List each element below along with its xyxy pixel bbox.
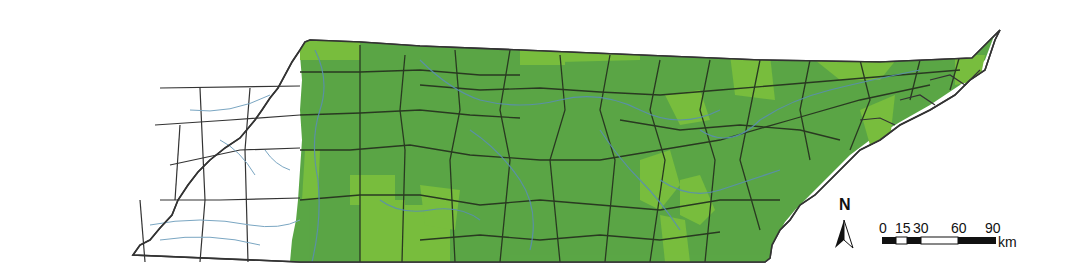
scale-tick-30: 30 [913, 220, 929, 236]
green-region [290, 20, 1000, 262]
north-label: N [839, 196, 851, 214]
scale-bar [882, 237, 996, 244]
scale-tick-60: 60 [951, 220, 967, 236]
scale-unit: km [998, 234, 1017, 250]
north-arrow-icon [835, 220, 853, 248]
scale-tick-0: 0 [879, 220, 887, 236]
scale-tick-15: 15 [895, 220, 911, 236]
